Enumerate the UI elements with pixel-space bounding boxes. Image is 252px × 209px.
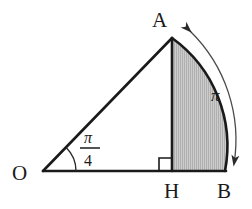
angle-numerator: π (84, 129, 93, 146)
label-O: O (12, 161, 27, 185)
math-figure: O A H B π π 4 (0, 0, 252, 209)
angle-denominator: 4 (84, 152, 92, 169)
label-arc-length: π (211, 86, 220, 105)
label-H: H (164, 179, 179, 203)
right-angle-marker (159, 158, 172, 171)
label-A: A (152, 8, 168, 32)
label-angle-pi-over-4: π 4 (80, 129, 100, 169)
label-B: B (217, 179, 231, 203)
figure-canvas: O A H B π π 4 (0, 0, 252, 209)
segment-OA (43, 38, 172, 171)
angle-arc-at-O (66, 148, 76, 171)
